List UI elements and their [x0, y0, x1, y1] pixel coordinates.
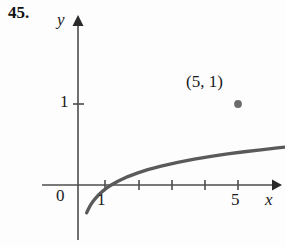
marked-point-dot: [234, 100, 242, 108]
y-axis-arrowhead: [73, 15, 84, 26]
origin-label: 0: [56, 186, 65, 206]
marked-point-label: (5, 1): [186, 72, 223, 92]
x-tick-label-1: 1: [97, 190, 106, 210]
y-axis-label: y: [57, 10, 65, 30]
graph-canvas: [0, 0, 285, 247]
y-tick-label-1: 1: [60, 92, 69, 112]
x-tick-label-5: 5: [231, 190, 240, 210]
log-curve: [87, 147, 285, 213]
x-axis-label: x: [265, 190, 273, 210]
x-axis-arrowhead: [272, 180, 282, 191]
figure-container: 45. y x 0 1 5 1 (5, 1): [0, 0, 285, 247]
